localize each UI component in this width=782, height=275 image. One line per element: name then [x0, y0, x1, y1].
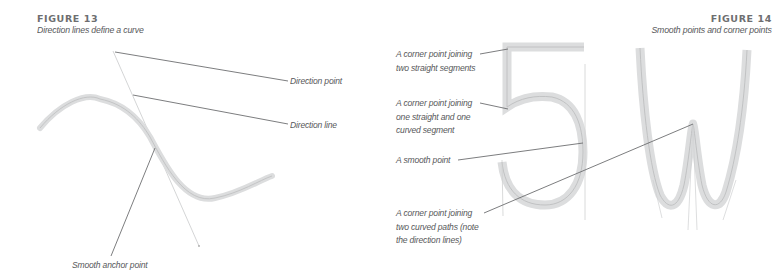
glyph-5-drawing	[502, 47, 585, 220]
label-line: two curved paths (note	[396, 220, 479, 234]
figure-13-caption: Direction lines define a curve	[37, 24, 144, 35]
glyph-5-outline	[502, 47, 584, 205]
label-direction-line: Direction line	[290, 118, 337, 132]
label-line: two straight segments	[396, 61, 475, 75]
figure-13-drawing	[40, 51, 288, 256]
label-line: curved segment	[396, 123, 472, 137]
label-line: A corner point joining	[396, 47, 475, 61]
leader-smooth-anchor	[111, 148, 155, 256]
smooth-curve-centerline	[40, 97, 272, 199]
leader-direction-line	[133, 95, 288, 124]
label-smooth-anchor-point: Smooth anchor point	[72, 258, 147, 272]
label-line: one straight and one	[396, 110, 472, 124]
leader-direction-point	[115, 52, 288, 81]
leader-smooth-point	[458, 143, 583, 160]
figure-14-number: FIGURE 14	[711, 13, 772, 24]
label-line: A corner point joining	[396, 206, 479, 220]
glyph-w-drawing	[640, 48, 747, 230]
label-direction-point: Direction point	[290, 74, 342, 88]
label-corner-two-straight: A corner point joining two straight segm…	[396, 47, 475, 74]
label-line: the direction lines)	[396, 233, 479, 247]
glyph-5-centerline	[502, 47, 584, 205]
illustration-canvas	[0, 0, 782, 275]
label-corner-two-curved: A corner point joining two curved paths …	[396, 206, 479, 247]
direction-point-end	[198, 245, 200, 247]
label-corner-straight-curved: A corner point joining one straight and …	[396, 96, 472, 137]
label-smooth-point: A smooth point	[396, 153, 450, 167]
label-line: A corner point joining	[396, 96, 472, 110]
figure-13-number: FIGURE 13	[37, 13, 98, 24]
figure-14-caption: Smooth points and corner points	[652, 24, 772, 35]
